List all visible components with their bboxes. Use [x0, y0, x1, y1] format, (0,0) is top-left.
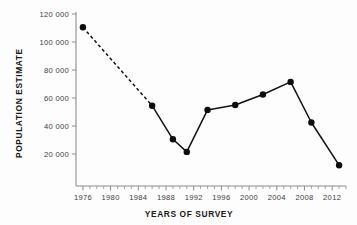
x-tick-label: 1984 — [129, 193, 147, 202]
data-point-marker — [308, 119, 314, 125]
y-axis-title: POPULATION ESTIMATE — [14, 48, 24, 158]
data-point-marker — [204, 107, 210, 113]
y-tick-label: 40 000 — [44, 122, 69, 131]
data-point-marker — [336, 162, 342, 168]
data-point-marker — [170, 136, 176, 142]
data-point-marker — [149, 103, 155, 109]
x-tick-label: 2000 — [240, 193, 258, 202]
x-tick-label: 2008 — [295, 193, 313, 202]
series-line-group — [83, 27, 339, 165]
y-tick-label: 100 000 — [39, 38, 69, 47]
chart-canvas: POPULATION ESTIMATE 20 00040 00060 00080… — [0, 0, 357, 225]
x-axis-title-text: YEARS OF SURVEY — [145, 209, 233, 219]
y-axis-title-text: POPULATION ESTIMATE — [14, 48, 24, 158]
x-axis-tick-labels: 1976198019841988199219962000200420082012 — [74, 193, 341, 202]
data-point-marker — [232, 102, 238, 108]
data-point-marker — [260, 91, 266, 97]
x-tick-label: 1976 — [74, 193, 92, 202]
data-point-marker — [287, 79, 293, 85]
x-tick-label: 2004 — [268, 193, 286, 202]
y-axis-tick-marks — [72, 14, 76, 154]
x-tick-label: 1996 — [212, 193, 230, 202]
data-point-marker — [184, 149, 190, 155]
x-tick-label: 1992 — [185, 193, 203, 202]
data-point-marker — [80, 24, 86, 30]
y-tick-label: 60 000 — [44, 94, 69, 103]
series-segment-dashed — [83, 27, 152, 105]
y-axis-tick-labels: 20 00040 00060 00080 000100 000120 000 — [39, 10, 69, 159]
population-estimate-chart: POPULATION ESTIMATE 20 00040 00060 00080… — [0, 0, 357, 225]
y-tick-label: 80 000 — [44, 66, 69, 75]
series-point-group — [80, 24, 343, 168]
x-tick-label: 1988 — [157, 193, 175, 202]
y-tick-label: 120 000 — [39, 10, 69, 19]
y-tick-label: 20 000 — [44, 150, 69, 159]
x-tick-label: 1980 — [102, 193, 120, 202]
x-tick-label: 2012 — [323, 193, 341, 202]
